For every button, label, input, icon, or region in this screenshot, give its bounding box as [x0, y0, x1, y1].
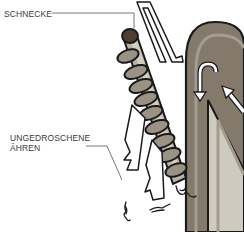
leader-line-aehren [86, 146, 122, 180]
thresher-auger-illustration [0, 0, 244, 232]
leader-line-schnecke [52, 13, 134, 28]
housing [186, 22, 244, 232]
outline-arrow-lower-left-icon [124, 105, 145, 170]
auger-tip [122, 29, 138, 43]
